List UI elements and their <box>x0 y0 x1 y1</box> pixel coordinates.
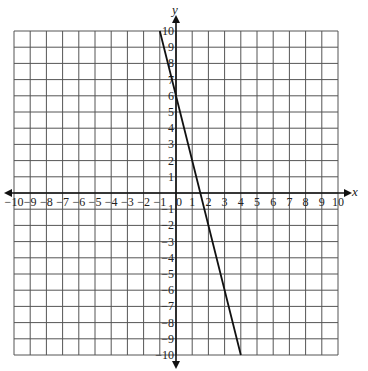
x-tick-label: −8 <box>40 195 53 209</box>
x-tick-label: −9 <box>24 195 37 209</box>
x-tick-label: −7 <box>56 195 69 209</box>
y-tick-label: 9 <box>168 40 174 54</box>
x-tick-label: 5 <box>254 195 260 209</box>
x-tick-label: −6 <box>72 195 85 209</box>
y-tick-label: 10 <box>162 24 174 38</box>
x-tick-label: −2 <box>137 195 150 209</box>
x-tick-label: −10 <box>5 195 24 209</box>
x-tick-label: −3 <box>121 195 134 209</box>
x-tick-label: 3 <box>222 195 228 209</box>
x-tick-label: 8 <box>303 195 309 209</box>
y-tick-label: −3 <box>161 235 174 249</box>
y-tick-label: −6 <box>161 283 174 297</box>
x-tick-label: 10 <box>332 195 344 209</box>
coordinate-graph: −10−9−8−7−6−5−4−3−2−1012345678910−10−9−8… <box>0 0 368 371</box>
y-tick-label: −2 <box>161 218 174 232</box>
y-tick-label: −1 <box>161 202 174 216</box>
x-tick-label: −4 <box>105 195 118 209</box>
y-tick-label: 5 <box>168 105 174 119</box>
x-tick-label: 9 <box>319 195 325 209</box>
x-axis-right-arrow-icon <box>344 189 352 197</box>
x-tick-label: 7 <box>286 195 292 209</box>
y-tick-label: −9 <box>161 332 174 346</box>
x-tick-label: 2 <box>205 195 211 209</box>
x-tick-label: 0 <box>176 195 182 209</box>
y-tick-label: −10 <box>155 348 174 362</box>
y-tick-label: 4 <box>168 121 174 135</box>
y-axis-down-arrow-icon <box>172 361 180 369</box>
x-tick-label: 4 <box>238 195 244 209</box>
y-tick-label: −5 <box>161 267 174 281</box>
y-tick-label: 2 <box>168 154 174 168</box>
y-axis-label: y <box>172 2 178 18</box>
x-axis-label: x <box>352 184 358 200</box>
y-tick-label: 3 <box>168 137 174 151</box>
y-tick-label: 6 <box>168 89 174 103</box>
y-tick-label: −7 <box>161 299 174 313</box>
y-tick-label: −4 <box>161 251 174 265</box>
x-tick-label: 6 <box>270 195 276 209</box>
x-tick-label: 1 <box>189 195 195 209</box>
x-tick-label: −5 <box>89 195 102 209</box>
y-tick-label: −8 <box>161 316 174 330</box>
y-tick-label: 1 <box>168 170 174 184</box>
